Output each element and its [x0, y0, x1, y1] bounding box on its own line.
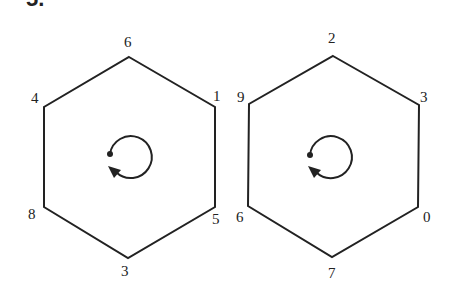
vertex-label-upper-left: 9	[237, 89, 245, 105]
vertex-label-upper-right: 3	[420, 89, 428, 105]
vertex-label-lower-left: 6	[236, 209, 244, 225]
vertex-label-bottom: 3	[121, 263, 129, 279]
vertex-label-lower-right: 0	[423, 209, 431, 225]
rotation-arrow-icon	[307, 136, 352, 178]
hexagon-outline	[44, 57, 215, 258]
vertex-label-upper-left: 4	[31, 90, 39, 106]
hexagon-outline	[248, 56, 419, 257]
vertex-label-top: 6	[124, 34, 132, 50]
left-hexagon: 6 1 5 3 8 4	[28, 34, 221, 279]
vertex-label-lower-right: 5	[212, 211, 220, 227]
hexagon-rotation-diagram: 5. 6 1 5 3 8 4 2 3 0 7 6 9	[0, 0, 454, 294]
rotation-arrow-icon	[107, 136, 152, 178]
problem-number: 5.	[26, 0, 44, 11]
vertex-label-bottom: 7	[328, 265, 336, 281]
vertex-label-top: 2	[328, 30, 336, 46]
right-hexagon: 2 3 0 7 6 9	[236, 30, 431, 281]
vertex-label-upper-right: 1	[213, 88, 221, 104]
vertex-label-lower-left: 8	[28, 206, 36, 222]
